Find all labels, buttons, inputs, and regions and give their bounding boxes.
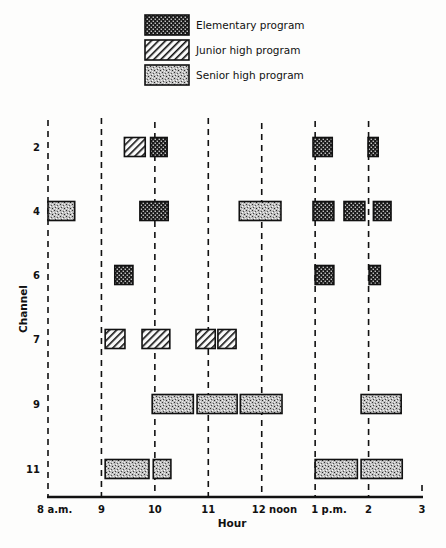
hour-gridlines xyxy=(48,118,422,497)
bar-ch6-elementary xyxy=(369,266,380,285)
legend-swatch-junior xyxy=(145,40,189,60)
bar-ch6-elementary xyxy=(115,266,133,285)
bar-ch11-senior xyxy=(315,460,357,479)
bar-ch7-junior xyxy=(105,330,125,349)
bar-ch4-senior xyxy=(48,202,75,221)
bar-ch9-senior xyxy=(361,395,401,414)
bar-ch11-senior xyxy=(361,460,402,479)
x-tick-1-p-m-: 1 p.m. xyxy=(311,504,347,515)
x-tick-2: 2 xyxy=(365,504,372,515)
program-schedule-chart: Elementary programJunior high programSen… xyxy=(0,0,446,548)
bar-ch2-elementary xyxy=(151,138,168,157)
x-tick-8-a-m-: 8 a.m. xyxy=(37,504,72,515)
bar-ch4-senior xyxy=(239,202,281,221)
legend-label-senior: Senior high program xyxy=(196,69,304,81)
bar-ch4-elementary xyxy=(344,202,365,221)
legend-label-junior: Junior high program xyxy=(195,44,300,56)
bar-ch4-elementary xyxy=(313,202,334,221)
channel-label-4: 4 xyxy=(33,206,40,217)
bar-ch9-senior xyxy=(197,395,237,414)
bar-ch7-junior xyxy=(196,330,215,349)
bar-ch4-elementary xyxy=(140,202,168,221)
bar-ch2-elementary xyxy=(368,138,378,157)
channel-label-7: 7 xyxy=(33,334,40,345)
legend: Elementary programJunior high programSen… xyxy=(145,15,305,85)
y-axis-title: Channel xyxy=(17,285,29,333)
bar-ch11-senior xyxy=(105,460,149,479)
bar-ch7-junior xyxy=(142,330,170,349)
x-tick-12-noon: 12 noon xyxy=(252,504,297,515)
channel-label-9: 9 xyxy=(33,399,40,410)
bar-ch9-senior xyxy=(152,395,193,414)
x-tick-9: 9 xyxy=(98,504,105,515)
x-tick-3: 3 xyxy=(419,504,426,515)
bar-ch2-junior xyxy=(124,138,145,157)
legend-swatch-senior xyxy=(145,65,189,85)
x-tick-10: 10 xyxy=(148,504,162,515)
channel-label-2: 2 xyxy=(33,142,40,153)
channel-label-6: 6 xyxy=(33,270,40,281)
legend-swatch-elementary xyxy=(145,15,189,35)
bar-ch4-elementary xyxy=(373,202,391,221)
x-axis-ticks: 8 a.m.9101112 noon1 p.m.23 xyxy=(37,504,426,515)
bar-ch9-senior xyxy=(240,395,282,414)
bar-ch6-elementary xyxy=(315,266,334,285)
x-tick-11: 11 xyxy=(201,504,215,515)
bar-ch7-junior xyxy=(218,330,236,349)
channel-label-11: 11 xyxy=(26,464,40,475)
legend-label-elementary: Elementary program xyxy=(196,19,305,31)
bar-ch11-senior xyxy=(153,460,171,479)
bar-ch2-elementary xyxy=(313,138,332,157)
x-axis-title: Hour xyxy=(218,517,247,529)
